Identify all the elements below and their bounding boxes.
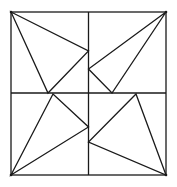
corner-dot-bottom-right [165, 174, 168, 177]
quadrant-triangle-diagram [0, 0, 177, 187]
triangle-top-right [89, 12, 167, 93]
corner-dot-top-right [165, 11, 168, 14]
triangle-top-left [11, 12, 89, 93]
corner-dot-bottom-left [10, 174, 13, 177]
corner-dot-top-left [10, 11, 13, 14]
triangle-bottom-left [11, 94, 89, 175]
triangle-bottom-right [89, 94, 167, 175]
